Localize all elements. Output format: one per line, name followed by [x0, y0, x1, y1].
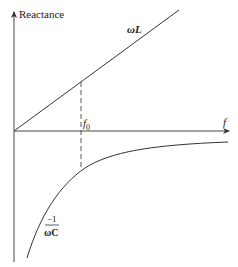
capacitive-label: −1 ωC: [44, 214, 59, 238]
inductive-reactance-line: [14, 10, 179, 131]
capacitive-label-numerator: −1: [47, 214, 57, 224]
capacitive-label-denominator: ωC: [44, 227, 59, 238]
resonance-frequency-label: f0: [83, 117, 90, 132]
inductive-label: ωL: [127, 23, 142, 35]
x-axis-label: f: [223, 116, 228, 128]
reactance-frequency-diagram: Reactance ωL f0 f −1 ωC: [0, 0, 238, 267]
capacitive-reactance-curve: [27, 142, 228, 258]
y-axis-label: Reactance: [19, 8, 64, 20]
